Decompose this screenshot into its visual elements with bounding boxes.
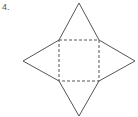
- square-base-dashed: [59, 40, 99, 81]
- figure-canvas: 4.: [0, 0, 138, 117]
- pyramid-net-diagram: [0, 0, 138, 117]
- top-triangle: [59, 3, 99, 40]
- bottom-triangle: [59, 81, 99, 116]
- left-triangle: [23, 40, 59, 81]
- right-triangle: [99, 40, 135, 81]
